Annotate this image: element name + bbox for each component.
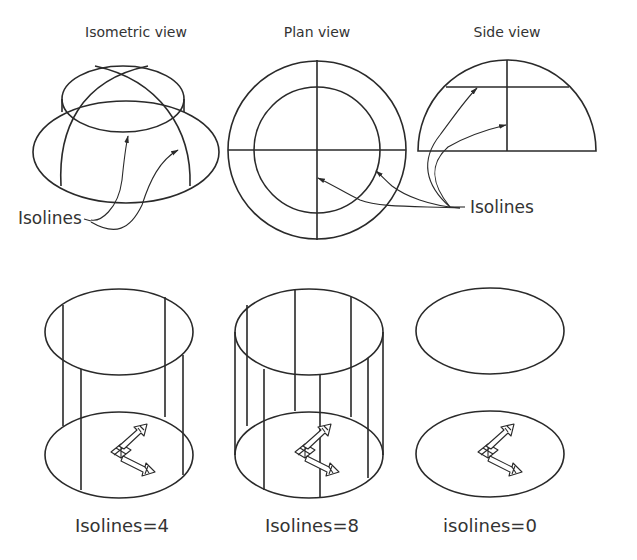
cyl8-caption: Isolines=8 [265,515,359,536]
cylinder-isolines-0: isolines=0 [416,288,564,536]
cylinder-isolines-4: Isolines=4 [45,289,193,536]
isometric-view-title: Isometric view [85,24,187,40]
dome-base-ellipse [33,101,219,203]
dome-top-ellipse [62,66,184,132]
isoline-meridian [95,66,190,186]
ucs-icon [295,424,339,476]
isolines-diagram: Isometric view Isolines Plan view Side v… [0,0,637,560]
ucs-icon [478,424,522,476]
isometric-view: Isometric view Isolines [18,24,219,229]
cyl4-top-ellipse [45,289,193,375]
plan-view: Plan view [228,24,460,240]
cylinder-isolines-8: Isolines=8 [235,289,383,536]
isometric-callout: Isolines [18,208,82,228]
side-view-title: Side view [474,24,541,40]
plan-view-title: Plan view [284,24,350,40]
isoline-meridian [61,66,148,186]
cyl0-caption: isolines=0 [443,515,537,536]
cyl4-caption: Isolines=4 [75,515,169,536]
side-view: Side view Isolines [418,24,596,217]
cyl0-top-ellipse [416,288,564,374]
side-callout: Isolines [470,197,534,217]
ucs-icon [111,424,155,476]
cyl8-top-ellipse [235,289,383,375]
